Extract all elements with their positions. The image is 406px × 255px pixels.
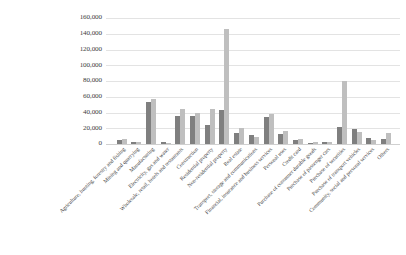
y-axis-tick-label: 0 <box>52 140 102 147</box>
y-axis: 160,000140,000120,000100,00080,00060,000… <box>52 0 102 255</box>
bar <box>269 114 274 144</box>
bar <box>386 133 391 144</box>
bar <box>327 142 332 144</box>
bar <box>342 81 347 144</box>
bar-group <box>146 18 156 144</box>
bar <box>180 109 185 144</box>
bar-group <box>234 18 244 144</box>
y-axis-tick-label: 80,000 <box>52 77 102 84</box>
bar-group <box>264 18 274 144</box>
bar-group <box>381 18 391 144</box>
y-axis-tick-label: 140,000 <box>52 30 102 37</box>
y-axis-tick-label: 100,000 <box>52 62 102 69</box>
bar-group <box>293 18 303 144</box>
bar <box>166 143 171 144</box>
x-axis-tick-label: Non-residential property <box>12 146 228 255</box>
bar <box>313 142 318 144</box>
bar-group <box>352 18 362 144</box>
bar <box>357 132 362 144</box>
bar-group <box>366 18 376 144</box>
bar-group <box>308 18 318 144</box>
bar <box>195 113 200 145</box>
bar-group <box>161 18 171 144</box>
bar-group <box>117 18 127 144</box>
bar <box>224 29 229 144</box>
bar <box>122 139 127 144</box>
bar-chart: 160,000140,000120,000100,00080,00060,000… <box>0 0 406 255</box>
bar-group <box>131 18 141 144</box>
x-axis-tick-label: Personal uses <box>71 146 287 255</box>
bar-group <box>190 18 200 144</box>
plot-area <box>106 18 400 144</box>
bar <box>254 137 259 144</box>
bar-group <box>322 18 332 144</box>
x-axis-tick-label: Purchase of transport vehicles <box>145 146 361 255</box>
x-axis-tick-label: Community, social and personal services <box>159 146 375 255</box>
y-axis-tick-label: 40,000 <box>52 109 102 116</box>
y-axis-tick-label: 160,000 <box>52 14 102 21</box>
bar-group <box>175 18 185 144</box>
x-axis-tick-label: Credit card <box>86 146 302 255</box>
bar <box>239 128 244 144</box>
y-axis-tick-label: 20,000 <box>52 125 102 132</box>
x-axis-tick-label: Others <box>174 146 390 255</box>
bar-group <box>337 18 347 144</box>
axis-baseline <box>106 144 400 145</box>
x-axis-tick-label: Purchase of consumer durable goods <box>101 146 317 255</box>
x-axis-tick-label: Purchase of passenger cars <box>115 146 331 255</box>
bar-group <box>278 18 288 144</box>
bar-group <box>249 18 259 144</box>
bar <box>151 99 156 144</box>
bar-group <box>219 18 229 144</box>
bar <box>136 142 141 144</box>
bar <box>210 109 215 144</box>
bar-group <box>205 18 215 144</box>
bar <box>371 140 376 144</box>
y-axis-tick-label: 120,000 <box>52 46 102 53</box>
x-axis-tick-label: Residential property <box>0 146 214 255</box>
y-axis-tick-label: 60,000 <box>52 93 102 100</box>
x-axis-tick-label: Purchase of securities <box>130 146 346 255</box>
bar <box>298 139 303 144</box>
bar <box>283 131 288 144</box>
